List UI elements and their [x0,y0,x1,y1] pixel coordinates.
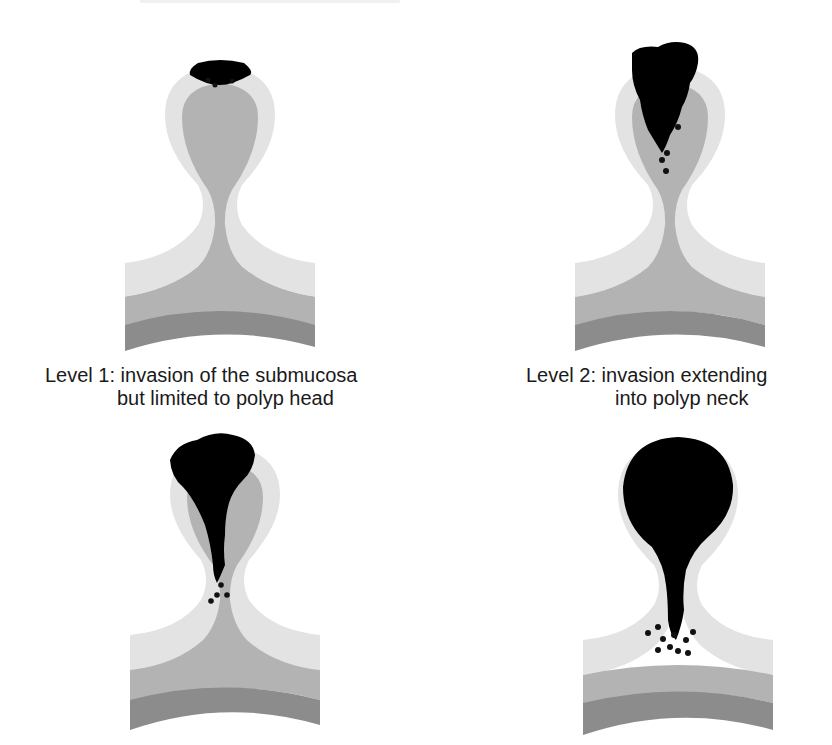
caption-level-2: Level 2: invasion extending into polyp n… [526,364,767,410]
polyp-illustration [570,35,770,365]
polyp-diagram-level-2 [570,35,770,365]
polyp-diagram-level-1 [120,35,320,365]
polyp-diagram-level-3 [125,425,325,745]
polyp-illustration [120,35,320,365]
polyp-illustration [125,425,325,745]
caption-level-1: Level 1: invasion of the submucosa but l… [45,364,357,410]
caption-level-2-line-1: Level 2: invasion extending [526,364,767,386]
cropped-heading [140,0,400,3]
caption-level-1-line-1: Level 1: invasion of the submucosa [45,364,357,386]
polyp-diagram-level-4 [578,425,778,745]
caption-level-1-line-2: but limited to polyp head [45,387,357,410]
caption-level-2-line-2: into polyp neck [526,387,767,410]
polyp-illustration [578,425,778,745]
